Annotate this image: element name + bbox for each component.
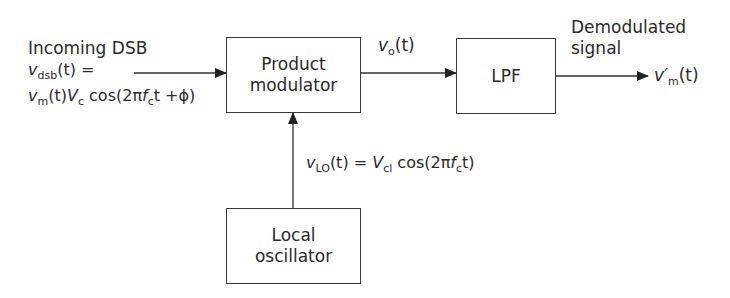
lpf-label: LPF [491, 66, 521, 87]
input-equation-line1: vdsb(t) = [28, 60, 94, 80]
lo-signal-label: vLO(t) = Vcl cos(2πfct) [306, 153, 475, 173]
output-caption-line1: Demodulated [571, 17, 686, 37]
product-modulator-block: Product modulator [226, 37, 361, 113]
input-caption: Incoming DSB [28, 38, 147, 58]
product-modulator-label-line2: modulator [250, 75, 338, 96]
input-equation-line2: vm(t)Vc cos(2πfct +ϕ) [28, 86, 195, 106]
local-oscillator-label-line2: oscillator [255, 246, 332, 267]
intermediate-signal-label: vo(t) [378, 35, 415, 55]
output-caption-line2: signal [571, 38, 621, 58]
local-oscillator-label-line1: Local [255, 225, 332, 246]
lpf-block: LPF [456, 38, 556, 114]
product-modulator-label-line1: Product [250, 54, 338, 75]
local-oscillator-block: Local oscillator [226, 208, 361, 284]
output-signal-label: v′m(t) [654, 65, 699, 85]
